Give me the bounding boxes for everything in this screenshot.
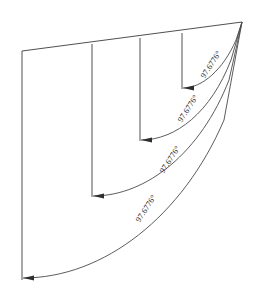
- dimension-arc: [141, 22, 242, 140]
- angular-dimension-2: 97.6776°: [141, 22, 242, 143]
- dimension-label: 97.6776°: [158, 144, 182, 175]
- arrow-head: [93, 193, 104, 198]
- arrow-head: [183, 85, 194, 90]
- dimension-label: 97.6776°: [134, 193, 158, 224]
- angular-dimension-1: 97.6776°: [183, 22, 242, 91]
- angular-dimension-3: 97.6776°: [93, 22, 242, 199]
- arrow-head: [23, 275, 34, 280]
- dimension-label: 97.6776°: [199, 49, 223, 80]
- top-edge-line: [22, 22, 242, 51]
- drawing-vector-layer: 97.6776°97.6776°97.6776°97.6776°: [0, 0, 258, 299]
- dimension-label: 97.6776°: [176, 93, 200, 124]
- technical-drawing-canvas: 97.6776°97.6776°97.6776°97.6776°: [0, 0, 258, 299]
- arrow-head: [141, 137, 152, 142]
